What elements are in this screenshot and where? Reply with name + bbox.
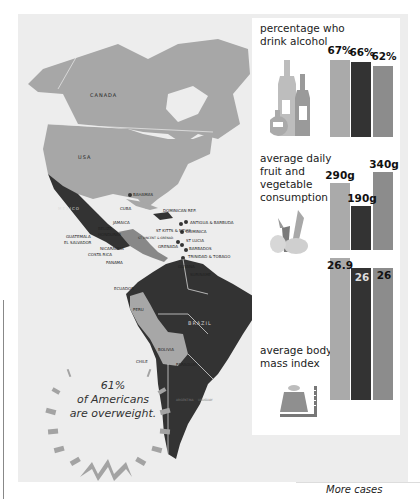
bmi-bar-2	[351, 268, 371, 400]
overweight-note: 61% of Americans are overweight.	[58, 379, 168, 421]
map-label-honduras: HONDURAS	[98, 232, 121, 237]
scale-weight-icon	[280, 384, 320, 418]
alcohol-bar-2	[351, 62, 371, 137]
metric-fruit: average daily fruit and vegetable consum…	[260, 152, 331, 204]
fruit-bar-3	[373, 172, 393, 250]
metric-fruit-label-4: consumption	[260, 191, 331, 204]
map-label-bolivia: BOLIVIA	[158, 347, 174, 352]
metric-fruit-label-2: fruit and	[260, 165, 331, 178]
metric-bmi-label-2: mass index	[260, 357, 332, 370]
map-label-cuba: CUBA	[120, 206, 131, 211]
bmi-value-3: 26	[369, 269, 399, 281]
map-label-costarica: COSTA RICA	[88, 252, 112, 257]
map-label-uruguay: URUGUAY	[198, 398, 213, 402]
metric-fruit-label-1: average daily	[260, 152, 331, 165]
alcohol-value-3: 62%	[369, 50, 399, 62]
fruit-bars: 290g 190g 340g	[330, 138, 394, 250]
map-label-guatemala: GUATEMALA	[66, 234, 91, 239]
map-label-trinidad: TRINIDAD & TOBAGO	[188, 254, 230, 259]
metric-bmi: average body mass index	[260, 344, 332, 370]
map-label-belize: BELIZE	[98, 226, 112, 231]
map-label-antigua: ANTIGUA & BARBUDA	[190, 220, 233, 225]
map-label-brazil: BRAZIL	[188, 320, 212, 326]
map-label-dominica: DOMINICA	[186, 229, 207, 234]
fruit-value-1: 290g	[325, 169, 355, 181]
vegetables-icon	[268, 208, 316, 256]
note-percent: 61%	[58, 379, 168, 393]
map-label-jamaica: JAMAICA	[113, 220, 130, 225]
map-label-grenada: GRENADA	[158, 244, 178, 249]
map-label-elsalvador: EL SALVADOR	[64, 240, 91, 245]
map-label-suriname: SURINAME	[190, 272, 211, 277]
map-label-barbados: BARBADOS	[189, 246, 212, 251]
bmi-bar-3	[373, 268, 393, 400]
bmi-bars: 26.9 26 26	[330, 258, 394, 400]
map-label-ecuador: ECUADOR	[114, 286, 134, 291]
bmi-value-1: 26.9	[325, 259, 355, 271]
map-label-dominican: DOMINICAN REP.	[163, 208, 196, 213]
alcohol-bars: 67% 66% 62%	[330, 18, 394, 137]
map-label-stvincent: ST VINCENT & GRENAD.	[138, 236, 174, 240]
metric-fruit-label-3: vegetable	[260, 178, 331, 191]
map-label-guyana: GUYANA	[178, 264, 195, 269]
fruit-value-2: 190g	[347, 192, 377, 204]
bottles-icon	[270, 60, 318, 136]
map-label-canada: CANADA	[90, 92, 117, 98]
more-cases-link[interactable]: More cases	[326, 484, 382, 495]
map-label-mexico: MEXICO	[58, 206, 80, 211]
metric-bmi-label-1: average body	[260, 344, 332, 357]
map-label-stlucia: ST LUCIA	[186, 238, 204, 243]
stats-card: percentage who drink alcohol 67% 66% 62%…	[252, 18, 400, 435]
fruit-bar-2	[351, 206, 371, 250]
page-divider	[0, 300, 4, 499]
alcohol-bar-3	[373, 66, 393, 137]
map-label-panama: PANAMA	[106, 260, 123, 265]
fruit-value-3: 340g	[369, 158, 399, 170]
note-line3: are overweight.	[58, 407, 168, 421]
map-label-usa: USA	[78, 154, 91, 160]
map-label-bahamas: BAHAMAS	[133, 192, 153, 197]
map-label-nicaragua: NICARAGUA	[100, 246, 124, 251]
map-label-peru: PERU	[133, 307, 144, 312]
note-line2: of Americans	[58, 393, 168, 407]
alcohol-bar-1	[330, 60, 350, 137]
